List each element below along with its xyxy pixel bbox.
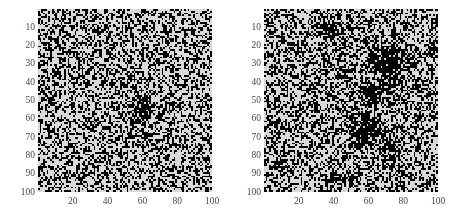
left-panel-plot-area — [38, 9, 212, 192]
right-panel-y-tick-label: 100 — [247, 187, 261, 197]
right-panel-x-tick-label: 100 — [418, 196, 455, 206]
right-panel-plot-area — [264, 9, 438, 192]
right-panel-y-tick-label: 50 — [252, 95, 262, 105]
left-panel-x-tick-label: 100 — [192, 196, 232, 206]
left-panel-y-tick-label: 100 — [21, 187, 35, 197]
left-panel-y-tick-label: 60 — [26, 113, 36, 123]
left-panel-y-tick-label: 10 — [26, 22, 36, 32]
right-panel-y-tick-label: 70 — [252, 132, 262, 142]
left-panel-y-tick-label: 30 — [26, 58, 36, 68]
left-panel: 102030405060708090100 20406080100 — [0, 0, 227, 221]
right-panel-y-tick-label: 60 — [252, 113, 262, 123]
right-panel-noise-raster — [264, 9, 438, 192]
left-panel-y-tick-label: 90 — [26, 168, 36, 178]
right-panel-y-tick-label: 20 — [252, 40, 262, 50]
left-panel-y-tick-label: 50 — [26, 95, 36, 105]
left-panel-y-tick-label: 20 — [26, 40, 36, 50]
right-panel-y-tick-label: 80 — [252, 150, 262, 160]
right-panel-y-tick-label: 10 — [252, 22, 262, 32]
right-panel-y-tick-label: 90 — [252, 168, 262, 178]
left-panel-noise-raster — [38, 9, 212, 192]
right-panel: 102030405060708090100 20406080100 — [227, 0, 454, 221]
left-panel-y-tick-label: 70 — [26, 132, 36, 142]
right-panel-y-tick-label: 30 — [252, 58, 262, 68]
left-panel-y-tick-label: 40 — [26, 77, 36, 87]
left-panel-y-tick-label: 80 — [26, 150, 36, 160]
figure-container: 102030405060708090100 20406080100 102030… — [0, 0, 455, 221]
right-panel-y-tick-label: 40 — [252, 77, 262, 87]
